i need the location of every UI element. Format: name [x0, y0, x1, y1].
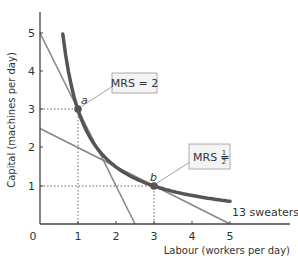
point-a-label: a: [81, 94, 88, 107]
tangent-line-a: [40, 33, 135, 224]
x-tick-label: 3: [151, 230, 158, 243]
mrs-isoquant-chart: 0 1 2 3 4 5 1 2 3 4 5 Labour (workers pe…: [0, 0, 298, 263]
origin-label: 0: [30, 230, 37, 243]
mrs-b-fraction-den: 2: [222, 158, 226, 166]
x-tick-label: 4: [189, 230, 196, 243]
callout-leader-b: [157, 162, 190, 183]
guide-b: [40, 186, 154, 224]
mrs-b-fraction-num: 1: [222, 149, 226, 157]
y-tick-label: 1: [28, 180, 35, 193]
y-tick-label: 2: [28, 141, 35, 154]
x-axis-title: Labour (workers per day): [164, 245, 290, 256]
y-tick-label: 5: [28, 27, 35, 40]
mrs-a-label: MRS = 2: [111, 77, 158, 90]
tangent-line-b: [40, 129, 230, 225]
isoquant-curve: [63, 34, 230, 201]
isoquant-label: 13 sweaters: [232, 206, 298, 219]
guide-a: [40, 109, 78, 224]
y-tick-label: 3: [28, 103, 35, 116]
x-tick-label: 5: [227, 230, 234, 243]
point-b-label: b: [150, 171, 157, 184]
y-axis-title: Capital (machines per day): [6, 52, 17, 188]
x-tick-label: 1: [75, 230, 82, 243]
x-tick-label: 2: [113, 230, 120, 243]
y-tick-label: 4: [28, 65, 35, 78]
